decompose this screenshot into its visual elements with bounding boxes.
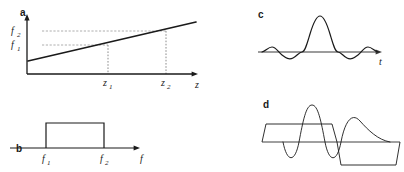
panel-a-xtick-z1-sub: 1 [109,83,113,91]
panel-a-xtick-z1: z [102,77,107,88]
panel-a-xtick-z2: z [160,77,165,88]
panel-a-x-axis-label: z [194,79,199,90]
panel-b-x-axis-label: f [140,153,144,164]
figure-svg: a f 2 f 1 z 1 z 2 [0,0,404,172]
panel-c-letter: c [258,9,264,20]
panel-a-x-axis-arrow [192,71,198,76]
panel-b-xtick-f1: f [42,153,46,164]
panel-b: b f 1 f 2 f [10,123,144,167]
panel-a-data-line [28,22,196,61]
panel-b-rect-pulse [46,123,104,148]
panel-d: d [262,99,400,165]
panel-b-xtick-f2: f [100,153,104,164]
panel-a-ytick-f2: f [11,25,15,36]
panel-b-xtick-f1-sub: 1 [47,159,51,167]
panel-a-ytick-f1-sub: 1 [17,45,21,53]
panel-d-letter: d [263,99,269,110]
panel-a-ytick-f2-sub: 2 [17,31,21,39]
panel-b-x-axis-arrow [134,145,140,150]
figure-container: a f 2 f 1 z 1 z 2 [0,0,404,172]
panel-a-letter: a [20,7,26,18]
panel-d-sine-wave [283,105,390,158]
panel-c-x-axis-label: t [379,56,382,67]
panel-a: a f 2 f 1 z 1 z 2 [11,7,199,91]
panel-b-xtick-f2-sub: 2 [105,159,109,167]
panel-c: c t [258,9,382,67]
panel-d-square-wave [262,124,400,165]
panel-a-xtick-z2-sub: 2 [167,83,171,91]
panel-a-ytick-f1: f [11,39,15,50]
